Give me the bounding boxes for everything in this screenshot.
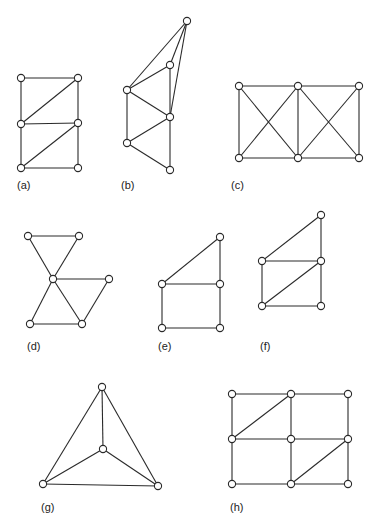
vertex-node: [317, 302, 324, 309]
vertex-node: [17, 120, 24, 127]
label-c: (c): [231, 180, 244, 191]
vertex-node: [154, 482, 161, 489]
vertex-node: [216, 324, 223, 331]
vertex-node: [183, 17, 190, 24]
vertex-node: [287, 435, 294, 442]
vertex-node: [344, 435, 351, 442]
vertex-node: [344, 390, 351, 397]
vertex-node: [258, 257, 265, 264]
vertex-node: [287, 480, 294, 487]
graph-c: [235, 82, 362, 161]
edge: [53, 279, 82, 324]
vertex-node: [317, 211, 324, 218]
vertex-node: [228, 480, 235, 487]
edge: [127, 21, 187, 90]
vertex-node: [228, 390, 235, 397]
vertex-node: [166, 113, 173, 120]
edge: [21, 123, 78, 124]
graph-f: [258, 211, 324, 309]
edge: [43, 484, 158, 486]
vertex-node: [294, 154, 301, 161]
vertex-node: [75, 232, 82, 239]
edge: [103, 449, 158, 486]
vertex-node: [216, 233, 223, 240]
vertex-node: [123, 139, 130, 146]
label-g: (g): [41, 502, 54, 513]
vertex-node: [216, 280, 223, 287]
edge: [232, 394, 291, 439]
edge: [43, 387, 102, 484]
graph-d: [24, 232, 112, 327]
vertex-node: [105, 275, 112, 282]
vertex-node: [17, 164, 24, 171]
vertex-node: [235, 154, 242, 161]
edge: [102, 387, 158, 486]
vertex-node: [355, 154, 362, 161]
edge: [170, 21, 187, 65]
label-a: (a): [17, 180, 30, 191]
vertex-node: [26, 320, 33, 327]
vertex-node: [317, 257, 324, 264]
edge: [30, 279, 53, 324]
graph-g: [39, 383, 161, 489]
edge: [28, 236, 53, 279]
edge: [262, 261, 321, 306]
edge: [53, 236, 79, 279]
vertex-node: [166, 61, 173, 68]
vertex-node: [158, 280, 165, 287]
vertex-node: [98, 383, 105, 390]
vertex-node: [344, 480, 351, 487]
vertex-node: [49, 275, 56, 282]
vertex-node: [355, 82, 362, 89]
edge: [262, 215, 321, 261]
label-f: (f): [260, 341, 270, 352]
vertex-node: [74, 164, 81, 171]
edge: [21, 78, 78, 124]
vertex-node: [287, 390, 294, 397]
vertex-node: [228, 435, 235, 442]
edge: [170, 21, 187, 117]
label-d: (d): [27, 341, 40, 352]
vertex-node: [24, 232, 31, 239]
vertex-node: [39, 480, 46, 487]
graph-a: [17, 74, 81, 171]
edge: [82, 279, 109, 324]
vertex-node: [235, 82, 242, 89]
edge: [43, 449, 103, 484]
edge: [162, 237, 220, 284]
edge: [291, 439, 348, 484]
edge: [127, 117, 170, 143]
vertex-node: [166, 166, 173, 173]
vertex-node: [258, 302, 265, 309]
edge: [102, 387, 103, 449]
vertex-node: [74, 74, 81, 81]
vertex-node: [17, 74, 24, 81]
vertex-node: [158, 324, 165, 331]
graph-e: [158, 233, 223, 331]
label-h: (h): [230, 502, 243, 513]
label-b: (b): [121, 180, 134, 191]
vertex-node: [99, 445, 106, 452]
vertex-node: [74, 119, 81, 126]
edge: [127, 90, 170, 117]
edge: [21, 123, 78, 168]
graph-figure: [0, 0, 378, 524]
vertex-node: [123, 86, 130, 93]
edge: [127, 65, 170, 90]
vertex-node: [78, 320, 85, 327]
graph-h: [228, 390, 351, 487]
vertex-node: [294, 82, 301, 89]
graph-b: [123, 17, 190, 173]
label-e: (e): [158, 341, 171, 352]
edge: [127, 143, 170, 170]
